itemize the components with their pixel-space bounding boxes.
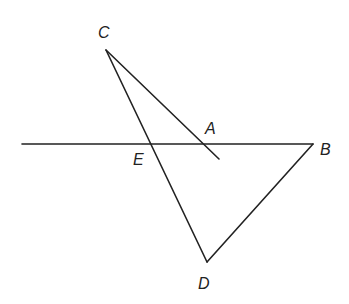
segment-CA (106, 50, 219, 159)
label-B: B (320, 141, 331, 158)
segment-DB (207, 144, 313, 262)
geometry-diagram: C A B E D (0, 0, 349, 304)
label-C: C (98, 24, 110, 41)
label-D: D (198, 275, 210, 292)
label-A: A (204, 120, 216, 137)
label-E: E (133, 151, 144, 168)
segment-CD (106, 50, 207, 262)
